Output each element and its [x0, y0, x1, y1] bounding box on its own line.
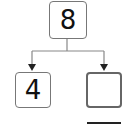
- whole-value: 8: [60, 5, 77, 35]
- part-box-right-answer[interactable]: [86, 72, 122, 108]
- answer-line: [87, 122, 121, 124]
- arrow-left-icon: [28, 64, 36, 71]
- part-left-value: 4: [25, 75, 42, 105]
- arrow-right-icon: [100, 64, 108, 71]
- whole-box: 8: [49, 1, 87, 39]
- part-box-left: 4: [15, 72, 51, 108]
